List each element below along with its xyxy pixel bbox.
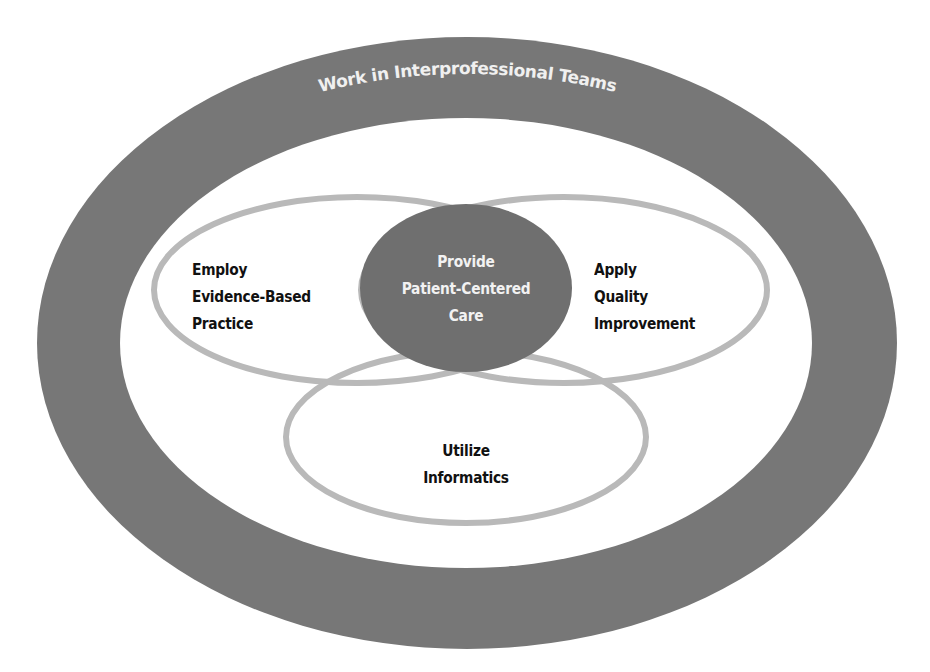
- center-label-line-3: Care: [380, 302, 552, 329]
- left-ellipse-label: Employ Evidence-Based Practice: [192, 256, 311, 337]
- left-label-line-2: Evidence-Based: [192, 283, 311, 310]
- diagram-shapes: Work in Interprofessional Teams: [0, 0, 930, 672]
- right-label-line-2: Quality: [594, 283, 695, 310]
- bottom-label-line-1: Utilize: [380, 437, 552, 464]
- right-label-line-1: Apply: [594, 256, 695, 283]
- center-label: Provide Patient-Centered Care: [380, 248, 552, 329]
- center-label-line-1: Provide: [380, 248, 552, 275]
- bottom-label-line-2: Informatics: [380, 464, 552, 491]
- bottom-ellipse-label: Utilize Informatics: [380, 437, 552, 491]
- left-label-line-1: Employ: [192, 256, 311, 283]
- right-ellipse-label: Apply Quality Improvement: [594, 256, 695, 337]
- left-label-line-3: Practice: [192, 310, 311, 337]
- center-label-line-2: Patient-Centered: [380, 275, 552, 302]
- right-label-line-3: Improvement: [594, 310, 695, 337]
- qsen-competencies-diagram: Work in Interprofessional Teams Provide …: [0, 0, 930, 672]
